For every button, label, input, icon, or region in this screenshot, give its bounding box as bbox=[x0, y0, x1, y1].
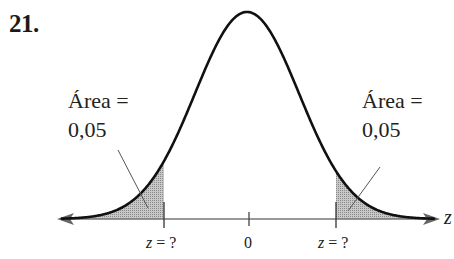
z-axis-label: z bbox=[444, 206, 452, 229]
left-area-label-line1: Área = bbox=[68, 88, 129, 114]
left-cutoff-rest: = ? bbox=[152, 234, 176, 251]
right-area-label-line1: Área = bbox=[362, 88, 423, 114]
right-area-label: Área = 0,05 bbox=[362, 88, 423, 143]
left-area-label: Área = 0,05 bbox=[68, 88, 129, 143]
right-area-value: 0,05 bbox=[362, 117, 423, 143]
left-cutoff-label: z = ? bbox=[146, 234, 176, 252]
center-tick-label: 0 bbox=[244, 234, 252, 252]
left-area-value: 0,05 bbox=[68, 117, 129, 143]
right-cutoff-rest: = ? bbox=[324, 234, 348, 251]
right-cutoff-label: z = ? bbox=[318, 234, 348, 252]
